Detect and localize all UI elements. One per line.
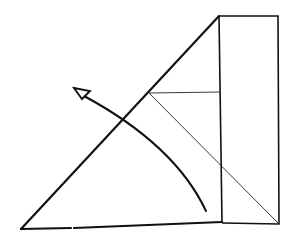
triangle-base-left [21, 228, 71, 229]
right-flap [219, 16, 279, 224]
flap-inner-edge [219, 16, 222, 222]
horizontal-crease [149, 92, 221, 93]
fold-arrow-path [84, 96, 206, 211]
triangle-hypotenuse [21, 16, 219, 229]
origami-diagram [0, 0, 294, 241]
triangle-base-right [74, 222, 222, 228]
